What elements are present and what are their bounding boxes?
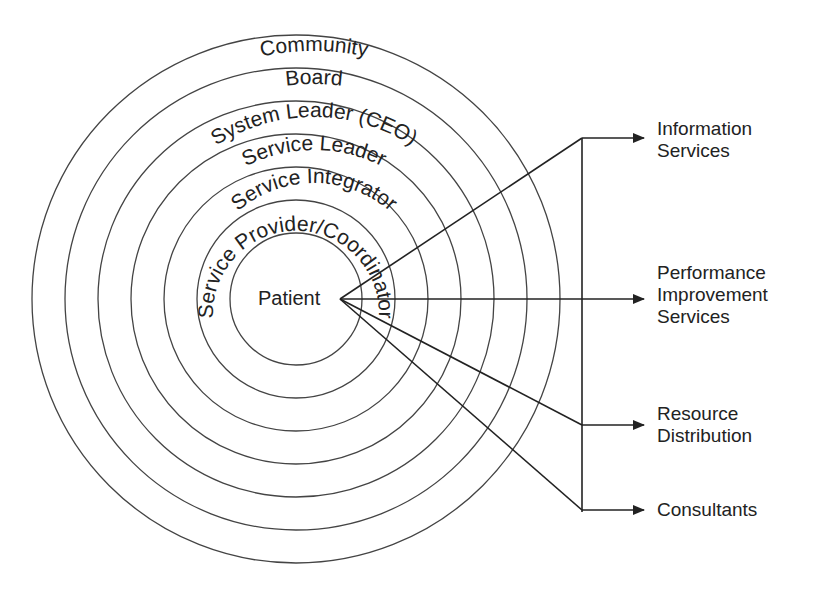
ring-label-board: Board	[284, 65, 344, 90]
output-performance-improvement-services: Performance Improvement Services	[657, 262, 768, 328]
ring-labels: Community Board System Leader (CEO) Serv…	[194, 32, 422, 319]
ring-label-service-integrator: Service Integrator	[226, 164, 402, 215]
output-consultants: Consultants	[657, 499, 757, 521]
connector-info	[340, 138, 582, 299]
connector-resource	[340, 299, 582, 425]
output-information-services: Information Services	[657, 118, 752, 162]
ring-label-community: Community	[258, 32, 371, 61]
output-resource-distribution: Resource Distribution	[657, 403, 752, 447]
patient-label: Patient	[258, 287, 320, 310]
